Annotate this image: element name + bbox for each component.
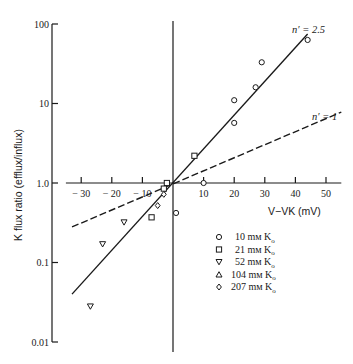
legend-entry: 21 mм Ko: [235, 244, 275, 258]
data-point-circle: [232, 98, 237, 103]
annotation-n-2-5: n′ = 2.5: [292, 24, 325, 35]
legend-marker-triangle-down: [216, 260, 222, 265]
data-point-triangle-down: [87, 304, 93, 309]
data-point-square: [161, 186, 166, 191]
data-point-diamond: [161, 191, 166, 197]
data-point-circle: [305, 37, 310, 42]
legend: 10 mм Ko21 mм Ko52 mм Ko104 mм Ko207 mм …: [216, 231, 276, 295]
y-tick-label: 10: [39, 98, 49, 109]
y-tick-label: 100: [34, 19, 49, 30]
data-point-circle: [259, 60, 264, 65]
legend-entry: 52 mм Ko: [235, 256, 275, 270]
legend-marker-circle: [216, 234, 221, 239]
legend-marker-triangle-up: [216, 272, 222, 277]
data-point-triangle-down: [121, 220, 127, 225]
data-point-square: [192, 153, 197, 158]
legend-marker-square: [216, 247, 221, 252]
data-point-diamond: [155, 203, 160, 209]
y-tick-label: 0.1: [37, 257, 50, 268]
data-point-square: [149, 215, 154, 220]
data-point-square: [164, 180, 169, 185]
x-tick-label: 50: [321, 188, 331, 199]
x-tick-label: − 20: [103, 188, 121, 199]
x-tick-label: − 30: [72, 188, 90, 199]
legend-entry: 10 mм Ko: [235, 231, 275, 245]
data-point-circle: [232, 120, 237, 125]
fit-lines: [72, 34, 341, 294]
y-tick-label: 0.01: [32, 337, 50, 348]
legend-entry: 207 mм Ko: [231, 281, 276, 295]
data-points: [87, 37, 310, 309]
legend-marker-diamond: [217, 284, 222, 290]
flux-ratio-chart: 0.010.11.010100− 30− 20− 101020304050 10…: [0, 0, 353, 364]
y-tick-label: 1.0: [37, 178, 50, 189]
x-tick-label: 10: [199, 188, 209, 199]
x-tick-label: 30: [260, 188, 270, 199]
x-axis-label: V−VK (mV): [268, 205, 321, 217]
x-tick-label: 40: [290, 188, 300, 199]
y-axis-label: K flux ratio (efflux/influx): [12, 129, 24, 241]
annotation-n-1: n′ = 1: [312, 111, 337, 122]
data-point-circle: [201, 180, 206, 185]
data-point-circle: [173, 210, 178, 215]
legend-entry: 104 mм Ko: [231, 269, 276, 283]
data-point-triangle-down: [100, 242, 106, 247]
axes: 0.010.11.010100− 30− 20− 101020304050: [32, 19, 342, 353]
data-point-circle: [253, 85, 258, 90]
x-tick-label: 20: [229, 188, 239, 199]
